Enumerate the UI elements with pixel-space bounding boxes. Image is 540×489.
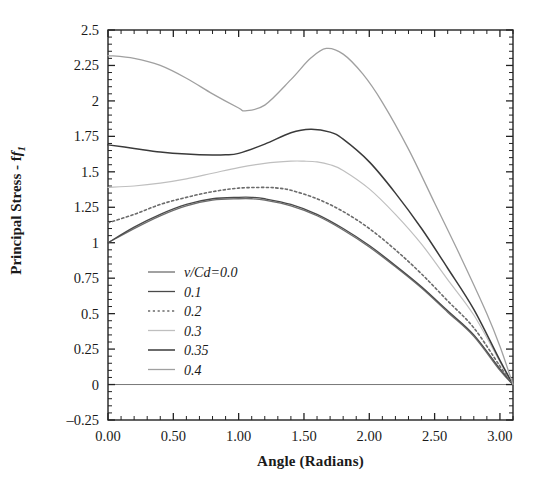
legend-label: 0.3 xyxy=(184,324,202,339)
series-line xyxy=(108,48,513,384)
data-series-lines xyxy=(108,48,513,384)
series-line xyxy=(108,129,513,384)
x-tick-label: 2.00 xyxy=(357,428,382,444)
chart-plot-svg: 0.000.501.001.502.002.503.00 –0.2500.250… xyxy=(0,0,540,489)
legend-label: 0.35 xyxy=(184,343,209,358)
y-axis-ticks xyxy=(108,30,513,420)
y-tick-label: 2.25 xyxy=(74,57,99,73)
y-tick-label: –0.25 xyxy=(65,412,99,428)
legend-label: 0.2 xyxy=(184,304,202,319)
chart-legend: v/Cd=0.00.10.20.30.350.4 xyxy=(148,265,237,378)
x-tick-label: 2.50 xyxy=(422,428,447,444)
x-axis-title: Angle (Radians) xyxy=(257,453,364,469)
chart-figure: 0.000.501.001.502.002.503.00 –0.2500.250… xyxy=(0,0,540,489)
x-axis-title-wrapper: Angle (Radians) xyxy=(108,452,513,470)
legend-label: 0.4 xyxy=(184,363,202,378)
plot-frame xyxy=(108,30,513,420)
y-tick-label: 1.25 xyxy=(74,199,99,215)
x-tick-label: 3.00 xyxy=(487,428,512,444)
x-axis-tick-labels: 0.000.501.001.502.002.503.00 xyxy=(95,428,512,444)
y-axis-tick-labels: –0.2500.250.50.7511.251.51.7522.252.5 xyxy=(65,22,99,428)
y-tick-label: 0.25 xyxy=(74,341,99,357)
series-line xyxy=(108,161,513,385)
y-tick-label: 0.75 xyxy=(74,270,99,286)
y-tick-label: 2 xyxy=(92,93,99,109)
x-tick-label: 0.50 xyxy=(161,428,186,444)
y-tick-label: 1 xyxy=(92,235,99,251)
x-tick-label: 1.00 xyxy=(226,428,251,444)
y-tick-label: 0.5 xyxy=(81,306,99,322)
y-tick-label: 1.75 xyxy=(74,128,99,144)
legend-label: 0.1 xyxy=(184,285,202,300)
x-tick-label: 0.00 xyxy=(95,428,120,444)
y-tick-label: 2.5 xyxy=(81,22,99,38)
x-tick-label: 1.50 xyxy=(291,428,316,444)
x-axis-ticks xyxy=(108,30,513,420)
legend-label: v/Cd=0.0 xyxy=(184,265,237,280)
y-tick-label: 1.5 xyxy=(81,164,99,180)
y-tick-label: 0 xyxy=(92,377,99,393)
